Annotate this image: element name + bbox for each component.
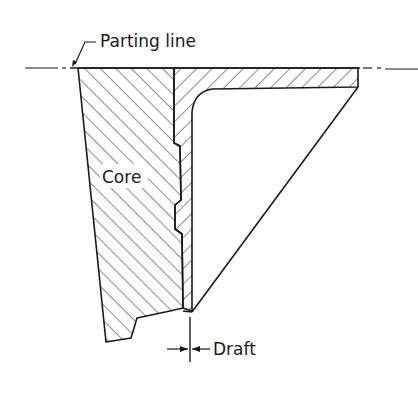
draft-indicator: [167, 317, 210, 362]
parting-line-leader: [72, 42, 96, 67]
draft-arrow-left-icon: [180, 346, 188, 352]
core-region: [78, 68, 183, 342]
casting-region: [174, 68, 358, 311]
draft-label: Draft: [213, 339, 256, 359]
parting-line-label: Parting line: [100, 31, 196, 51]
draft-arrow-right-icon: [192, 346, 200, 352]
core-label: Core: [102, 167, 141, 187]
casting-outer-edge: [192, 87, 358, 312]
core-draft-diagram: Parting line Core Draft: [0, 0, 418, 398]
bottom-edge: [183, 311, 192, 312]
